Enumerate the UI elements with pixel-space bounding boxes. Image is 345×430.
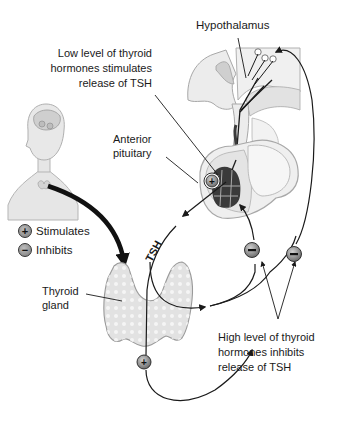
legend-stimulates: + Stimulates xyxy=(18,224,90,238)
label-high-level-1: High level of thyroid xyxy=(218,330,315,344)
label-low-level-1: Low level of thyroid xyxy=(2,46,152,60)
label-low-level-3: release of TSH xyxy=(2,76,152,90)
plus-icon: + xyxy=(18,224,32,238)
marker-pituitary-stimulate: + xyxy=(204,173,220,189)
label-anterior: Anterior xyxy=(113,132,152,146)
label-gland: gland xyxy=(42,298,69,312)
svg-text:+: + xyxy=(209,176,215,187)
label-thyroid: Thyroid xyxy=(42,284,79,298)
label-high-level-3: release of TSH xyxy=(218,360,291,374)
label-high-level-2: hormones inhibits xyxy=(218,345,304,359)
marker-thyroid-stimulate: + xyxy=(137,355,151,369)
label-pituitary: pituitary xyxy=(113,146,152,160)
thyroid-gland xyxy=(104,262,193,346)
marker-inhibit-hypothalamus xyxy=(287,247,302,262)
svg-text:+: + xyxy=(141,357,147,368)
human-figure xyxy=(8,104,78,220)
legend-inhibits-label: Inhibits xyxy=(36,244,72,256)
label-low-level-2: hormones stimulates xyxy=(2,61,152,75)
label-hypothalamus: Hypothalamus xyxy=(196,18,270,32)
marker-inhibit-pituitary xyxy=(245,243,260,258)
legend-stimulates-label: Stimulates xyxy=(36,225,90,237)
legend-inhibits: − Inhibits xyxy=(18,243,72,257)
minus-icon: − xyxy=(18,243,32,257)
